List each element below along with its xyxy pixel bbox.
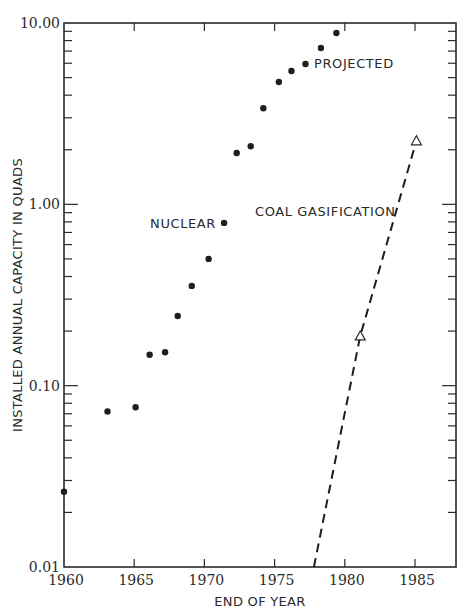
data-point (146, 352, 152, 358)
x-tick-label: 1980 (329, 572, 365, 588)
x-tick-label: 1985 (399, 572, 435, 588)
y-tick-label: 10.00 (20, 15, 60, 31)
data-point (221, 220, 227, 226)
x-axis-title: END OF YEAR (214, 594, 305, 609)
triangle-marker (411, 136, 421, 145)
plot-frame (64, 23, 456, 567)
data-point (288, 68, 294, 74)
data-point (302, 61, 308, 67)
data-point (333, 30, 339, 36)
x-tick-label: 1970 (189, 572, 225, 588)
y-tick-label: 0.10 (29, 378, 60, 394)
data-point (132, 404, 138, 410)
triangle-marker (355, 331, 365, 340)
data-point (276, 79, 282, 85)
x-tick-label: 1965 (118, 572, 154, 588)
data-point (61, 489, 67, 495)
data-point (318, 45, 324, 51)
data-point (104, 408, 110, 414)
series-coal-gasification (314, 136, 421, 567)
capacity-chart: 1960196519701975198019850.010.101.0010.0… (0, 0, 474, 615)
series-nuclear (61, 30, 340, 495)
plot-border (64, 23, 456, 567)
data-point (260, 105, 266, 111)
y-tick-label: 0.01 (29, 559, 60, 575)
annotation-nuclear: NUCLEAR (150, 216, 216, 231)
tick-labels: 1960196519701975198019850.010.101.0010.0… (20, 15, 435, 588)
data-point (162, 349, 168, 355)
data-point (205, 256, 211, 262)
annotation-coal-gasification: COAL GASIFICATION (255, 204, 396, 219)
annotation-projected: PROJECTED (314, 56, 394, 71)
data-point (233, 150, 239, 156)
data-point (189, 283, 195, 289)
data-point (248, 143, 254, 149)
y-tick-label: 1.00 (29, 196, 60, 212)
data-point (175, 313, 181, 319)
axis-ticks (64, 23, 456, 567)
y-axis-title: INSTALLED ANNUAL CAPACITY IN QUADS (10, 158, 25, 432)
x-tick-label: 1975 (259, 572, 295, 588)
